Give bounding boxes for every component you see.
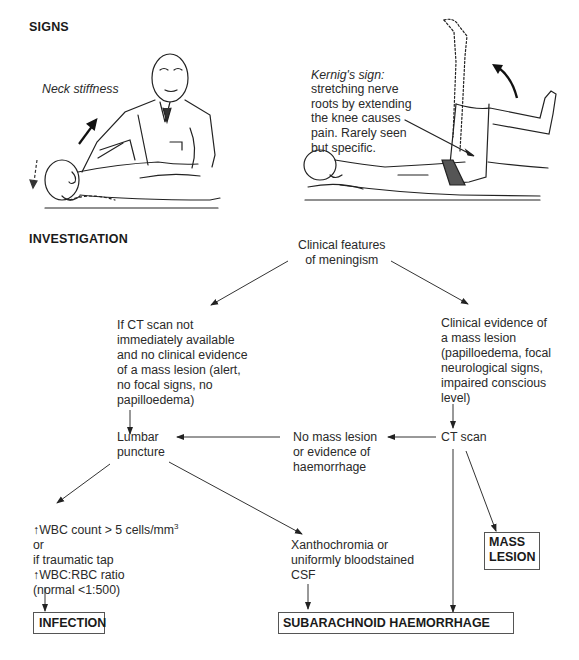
outcome-mass-lesion: MASS LESION (484, 532, 540, 570)
wbc-superscript: 3 (174, 522, 178, 531)
node-clinical-features: Clinical features of meningism (298, 238, 385, 268)
outcome-infection: INFECTION (33, 612, 105, 634)
node-lumbar-puncture: Lumbar puncture (117, 430, 165, 460)
outcome-subarachnoid-haemorrhage: SUBARACHNOID HAEMORRHAGE (278, 612, 514, 634)
node-xanthochromia: Xanthochromia or uniformly bloodstained … (291, 538, 414, 583)
node-no-mass-lesion: No mass lesion or evidence of haemorrhag… (293, 430, 377, 475)
node-no-ct-available: If CT scan not immediately available and… (117, 318, 248, 408)
wbc-count-line: ↑WBC count > 5 cells/mm (33, 523, 174, 537)
node-wbc-count: ↑WBC count > 5 cells/mm3 or if traumatic… (33, 508, 179, 613)
node-ct-scan: CT scan (441, 430, 487, 445)
wbc-ratio-text: or if traumatic tap ↑WBC:RBC ratio (norm… (33, 538, 179, 598)
node-mass-lesion-evidence: Clinical evidence of a mass lesion (papi… (441, 316, 551, 406)
